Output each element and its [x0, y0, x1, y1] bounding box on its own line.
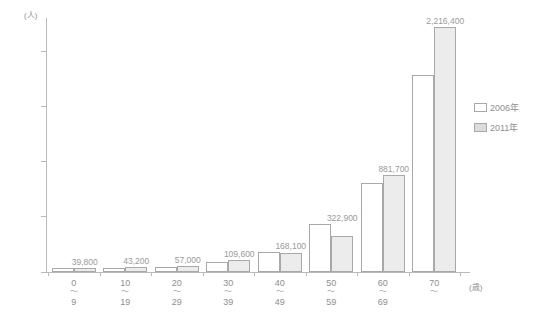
x-tick-mark [460, 272, 461, 276]
x-tick-mark [254, 272, 255, 276]
gray-swatch [474, 123, 487, 132]
white-swatch [474, 103, 487, 112]
legend: 2006年2011年 [474, 101, 519, 141]
x-tick-mark [48, 272, 49, 276]
bar-2011年-0 [74, 268, 96, 272]
y-tick-mark [41, 51, 46, 52]
bar-2011年-50 [331, 236, 353, 272]
y-tick-mark [41, 272, 46, 273]
y-tick-mark [41, 161, 46, 162]
y-axis-unit-label: (人) [24, 9, 37, 20]
legend-item[interactable]: 2006年 [474, 101, 519, 114]
category-range-tilde: ～ [404, 288, 464, 296]
y-tick-mark [41, 216, 46, 217]
bar-2006年-0 [52, 268, 74, 272]
bar-value-label: 2,216,400 [410, 16, 480, 26]
bar-2011年-10 [125, 267, 147, 272]
bar-value-label: 322,900 [307, 213, 377, 223]
legend-item-label: 2011年 [490, 121, 518, 134]
x-tick-mark [151, 272, 152, 276]
bar-2011年-20 [177, 266, 199, 272]
bar-2006年-60 [361, 183, 383, 272]
category-range-end: 69 [353, 297, 413, 307]
x-tick-mark [409, 272, 410, 276]
bar-value-label: 168,100 [256, 241, 326, 251]
x-tick-mark [203, 272, 204, 276]
bar-2011年-70 [434, 27, 456, 272]
legend-item[interactable]: 2011年 [474, 121, 519, 134]
bar-2011年-60 [383, 175, 405, 272]
y-axis-line [46, 18, 47, 272]
bar-2011年-30 [228, 260, 250, 272]
x-axis-category-label: 70～ [404, 278, 464, 297]
bar-2006年-20 [155, 267, 177, 272]
y-tick-mark [41, 106, 46, 107]
bar-2006年-70 [412, 75, 434, 272]
bar-2006年-10 [103, 268, 125, 272]
x-axis-line [46, 272, 470, 273]
bar-chart: (人) (歳) 050万100万150万200万 0～910～1920～2930… [0, 0, 538, 317]
x-axis-unit-label: (歳) [469, 281, 482, 292]
x-tick-mark [306, 272, 307, 276]
x-tick-mark [357, 272, 358, 276]
bar-2011年-40 [280, 253, 302, 272]
legend-item-label: 2006年 [490, 101, 519, 114]
bar-value-label: 881,700 [359, 164, 429, 174]
x-tick-mark [100, 272, 101, 276]
